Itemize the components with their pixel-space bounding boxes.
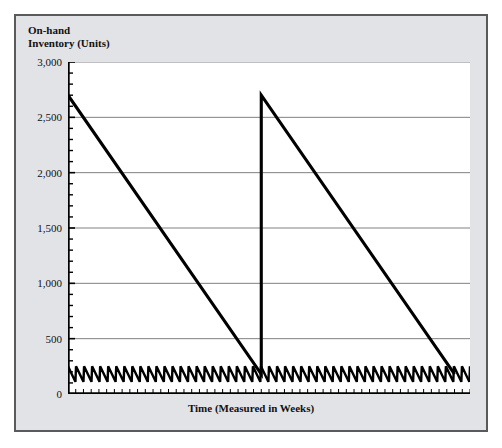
plot-area bbox=[68, 62, 470, 394]
y-axis-tick-label: 2,000 bbox=[37, 167, 62, 179]
series-small-lot-line bbox=[68, 366, 470, 382]
chart-figure: On-hand Inventory (Units) 3,0002,5002,00… bbox=[14, 14, 488, 432]
y-axis-tick-label: 1,500 bbox=[37, 222, 62, 234]
y-axis-tick-label: 2,500 bbox=[37, 111, 62, 123]
y-axis-title: On-hand Inventory (Units) bbox=[28, 24, 110, 50]
inventory-sawtooth-plot bbox=[68, 62, 470, 394]
y-axis-tick-label: 500 bbox=[46, 333, 63, 345]
chart-inner: On-hand Inventory (Units) 3,0002,5002,00… bbox=[16, 16, 486, 430]
y-axis-tick-label: 0 bbox=[57, 388, 63, 400]
x-axis-title: Time (Measured in Weeks) bbox=[16, 402, 486, 414]
y-axis-tick-label: 1,000 bbox=[37, 277, 62, 289]
series-large-lot-line bbox=[68, 95, 455, 374]
y-axis-tick-labels: 3,0002,5002,0001,5001,0005000 bbox=[16, 62, 62, 394]
y-axis-tick-label: 3,000 bbox=[37, 56, 62, 68]
